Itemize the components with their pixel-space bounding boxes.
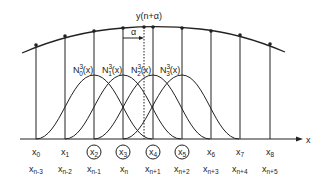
knot-rel-label-3: xn <box>120 164 129 175</box>
knot-lines <box>36 27 270 139</box>
knot-index-labels: x0 x1 x2 x3 x4 x5 x6 x7 x8 <box>32 147 275 158</box>
knot-rel-label-1: xn-2 <box>58 164 72 175</box>
knot-label-7: x7 <box>236 147 245 158</box>
knot-label-8: x8 <box>266 147 275 158</box>
basis-labels: N30(x) N31(x) N32(x) N33(x) <box>73 63 180 77</box>
knot-label-4: x4 <box>149 147 158 158</box>
knot-label-6: x6 <box>207 147 216 158</box>
x-axis: x <box>20 135 311 145</box>
knot-label-1: x1 <box>61 147 70 158</box>
basis-label-3: N33(x) <box>160 63 180 77</box>
basis-functions <box>36 75 239 139</box>
knot-relative-labels: xn-3 xn-2 xn-1 xn xn+1 xn+2 xn+3 xn+4 xn… <box>29 164 278 175</box>
highlight-circles <box>87 145 189 159</box>
x-axis-label: x <box>306 135 311 145</box>
knot-label-5: x5 <box>178 147 187 158</box>
b-spline-interpolation-diagram: N30(x) N31(x) N32(x) N33(x) y(n+α) α x x… <box>0 0 327 182</box>
alpha-label: α <box>131 27 136 37</box>
knot-rel-label-6: xn+3 <box>203 164 219 175</box>
knot-rel-label-7: xn+4 <box>232 164 248 175</box>
knot-rel-label-0: xn-3 <box>29 164 43 175</box>
basis-label-2: N32(x) <box>131 63 151 77</box>
knot-rel-label-4: xn+1 <box>145 164 161 175</box>
basis-label-1: N31(x) <box>102 63 122 77</box>
basis-label-0: N30(x) <box>73 63 93 77</box>
knot-rel-label-8: xn+5 <box>262 164 278 175</box>
knot-label-3: x3 <box>119 147 128 158</box>
knot-rel-label-2: xn-1 <box>87 164 101 175</box>
interpolated-point-label: y(n+α) <box>136 11 162 21</box>
knot-label-2: x2 <box>90 147 99 158</box>
knot-rel-label-5: xn+2 <box>174 164 190 175</box>
knot-label-0: x0 <box>32 147 41 158</box>
